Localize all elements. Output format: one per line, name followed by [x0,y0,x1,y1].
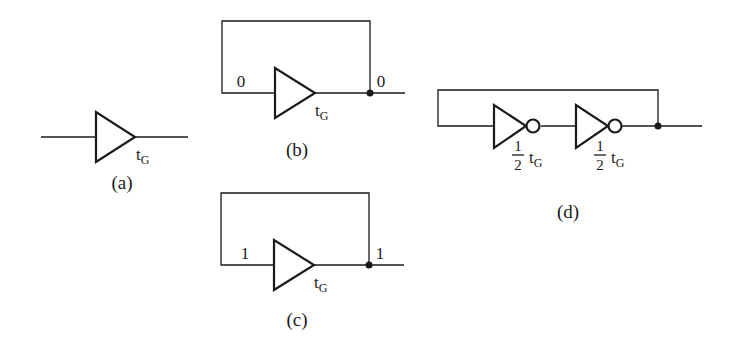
delay-label-1: 1 2 tG [512,138,543,173]
output-value: 1 [376,244,385,263]
caption-a: (a) [111,172,132,194]
input-value: 1 [241,244,250,263]
subfigure-d: 1 2 tG 1 2 tG (d) [438,90,702,223]
feedback-wire [438,90,658,126]
junction-node [366,262,373,269]
svg-text:1: 1 [596,138,604,154]
svg-text:1: 1 [514,138,522,154]
buffer-gate-icon [274,240,314,290]
svg-text:2: 2 [514,157,522,173]
delay-label: tG [314,273,328,295]
inversion-bubble-icon [609,120,622,133]
output-value: 0 [377,72,386,91]
caption-d: (d) [557,201,579,223]
svg-text:2: 2 [596,157,604,173]
svg-text:tG: tG [529,148,543,170]
delay-label-2: 1 2 tG [594,138,625,173]
junction-node [655,123,662,130]
svg-text:tG: tG [611,148,625,170]
input-value: 0 [237,72,246,91]
logic-diagram: tG (a) 0 0 tG (b) 1 1 tG (c) 1 [0,0,737,348]
buffer-gate-icon [96,112,135,162]
junction-node [367,90,374,97]
inversion-bubble-icon [527,120,540,133]
subfigure-b: 0 0 tG (b) [222,21,405,161]
caption-b: (b) [286,139,308,161]
subfigure-a: tG (a) [41,112,188,194]
subfigure-c: 1 1 tG (c) [221,193,404,331]
delay-label: tG [136,145,150,167]
buffer-gate-icon [275,68,315,118]
delay-label: tG [315,101,329,123]
caption-c: (c) [286,309,307,331]
